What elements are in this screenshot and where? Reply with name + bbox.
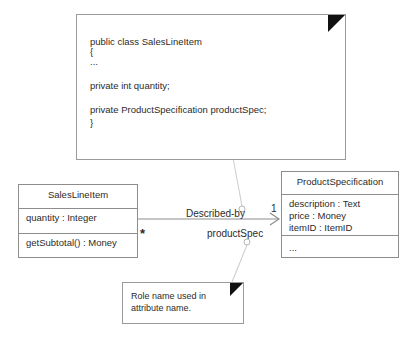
code-line: private ProductSpecification productSpec… [90,105,337,118]
code-line: { [90,47,337,57]
class-name: SalesLineItem [19,185,137,209]
operation-row: getSubtotal() : Money [26,237,130,249]
attribute-row: itemID : ItemID [289,222,391,234]
operation-row: ... [289,242,391,254]
role-name-note: Role name used in attribute name. [122,282,244,324]
note-fold-corner-icon [328,15,345,32]
multiplicity-target: 1 [271,203,277,214]
attribute-row: price : Money [289,210,391,222]
attribute-row: description : Text [289,198,391,210]
code-line: public class SalesLineItem [90,37,337,47]
role-note-leader-line [232,245,247,282]
code-line: private int quantity; [90,81,337,94]
attribute-row: quantity : Integer [26,212,130,224]
class-attributes: quantity : Integer [19,209,137,234]
role-note-leader [232,239,250,282]
code-line: ... [90,57,337,70]
class-attributes: description : Text price : Money itemID … [282,195,398,236]
association-role-name: productSpec [207,228,263,239]
code-line: } [90,118,337,128]
multiplicity-source: * [140,227,145,240]
class-box-sales-line-item[interactable]: SalesLineItem quantity : Integer getSubt… [18,184,138,258]
class-box-product-specification[interactable]: ProductSpecification description : Text … [281,171,399,258]
class-name: ProductSpecification [282,172,398,195]
class-operations: ... [282,236,398,259]
code-note-content: public class SalesLineItem { ... private… [90,37,337,128]
role-name-note-text: Role name used in attribute name. [131,291,237,314]
class-operations: getSubtotal() : Money [19,234,137,259]
code-note: public class SalesLineItem { ... private… [76,14,346,160]
role-note-anchor-circle [244,239,250,245]
association-label: Described-by [186,208,245,219]
